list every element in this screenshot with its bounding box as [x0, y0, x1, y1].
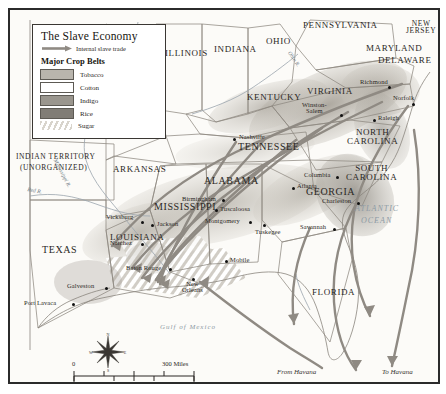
scale-km-max: 300 Kilometers: [124, 382, 164, 384]
scale-miles-zero: 0: [72, 360, 75, 367]
legend-label-tobacco: Tobacco: [80, 71, 104, 79]
legend-item-indigo: Indigo: [40, 95, 158, 106]
legend-trade-label: Internal slave trade: [76, 45, 126, 52]
legend-label-sugar: Sugar: [78, 122, 94, 130]
legend-item-cotton: Cotton: [40, 82, 158, 93]
svg-text:E: E: [124, 350, 127, 355]
legend-swatch-sugar: [40, 121, 72, 130]
legend-swatch-tobacco: [40, 69, 74, 80]
scale-miles-max: 300 Miles: [162, 360, 188, 367]
legend-label-indigo: Indigo: [80, 97, 98, 105]
legend-item-tobacco: Tobacco: [40, 69, 158, 80]
legend-swatch-cotton: [40, 82, 74, 93]
svg-text:N: N: [107, 332, 110, 337]
scale-km-zero: 0: [72, 382, 75, 384]
legend-trade-row: Internal slave trade: [42, 45, 158, 52]
scale-bar: 0 300 Miles 0 300 Kilometers: [70, 362, 200, 384]
legend-label-cotton: Cotton: [80, 84, 99, 92]
svg-text:W: W: [89, 350, 93, 355]
legend-crops-heading: Major Crop Belts: [41, 56, 158, 66]
legend-label-rice: Rice: [80, 110, 93, 118]
arrow-right-icon: [42, 45, 72, 52]
legend-swatch-indigo: [40, 95, 74, 106]
legend-item-rice: Rice: [40, 108, 158, 119]
slave-economy-map-figure: ILLINOIS INDIANA OHIO PENNSYLVANIA NEWJE…: [0, 0, 446, 394]
map-legend: The Slave Economy Internal slave trade M…: [32, 24, 166, 139]
legend-item-sugar: Sugar: [40, 121, 158, 130]
map-frame: ILLINOIS INDIANA OHIO PENNSYLVANIA NEWJE…: [8, 8, 440, 384]
legend-swatch-rice: [40, 108, 74, 119]
legend-title: The Slave Economy: [41, 30, 158, 42]
